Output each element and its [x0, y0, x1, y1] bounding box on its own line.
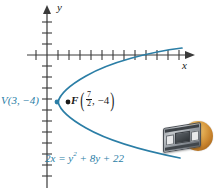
focus-close-paren: ) [111, 92, 115, 109]
focus-open-paren: ( [81, 92, 85, 109]
y-axis-label: y [57, 2, 62, 13]
fraction-numerator: 7 [86, 91, 92, 99]
calculator-left-key [166, 134, 174, 145]
focus-fraction: 7 2 [86, 91, 92, 109]
vertex-label: V(3, −4) [1, 95, 39, 106]
focus-second-coordinate: , −4 [92, 95, 109, 106]
focus-letter: F [71, 95, 78, 106]
parabola-figure: y x V(3, −4) F ( 7 2 , −4 ) 2x = y2 + 8y… [0, 0, 221, 190]
x-axis-label: x [182, 60, 187, 71]
focus-label: F ( 7 2 , −4 ) [71, 92, 116, 110]
fraction-denominator: 2 [86, 99, 92, 108]
equation-term1-exponent: 2 [73, 150, 77, 158]
graphing-calculator-photo [163, 119, 215, 155]
calculator-screen [175, 131, 190, 144]
vertex-point [55, 100, 60, 105]
calculator-right-key [191, 130, 199, 141]
focus-point [66, 100, 71, 105]
equation-lhs: 2x [45, 152, 55, 164]
y-axis-arrowhead [43, 5, 51, 14]
equation-rest: + 8y + 22 [79, 152, 123, 164]
equation-equals: = [58, 152, 65, 164]
x-axis-arrowhead [185, 51, 195, 59]
equation-label: 2x = y2 + 8y + 22 [45, 152, 124, 164]
